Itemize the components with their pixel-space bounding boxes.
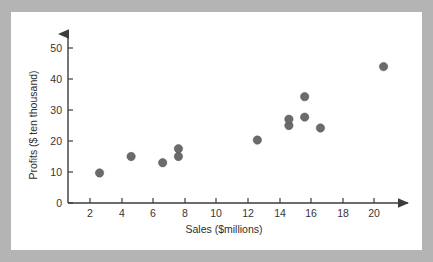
y-tick-label-50: 50 — [50, 42, 62, 54]
data-point — [253, 136, 261, 144]
data-points-layer — [95, 62, 387, 177]
x-axis-ticks: 2 4 6 8 10 12 14 16 18 20 — [87, 198, 380, 219]
x-tick-label-4: 4 — [119, 207, 125, 219]
y-tick-label-40: 40 — [50, 73, 62, 85]
plot-area: 0 10 20 30 40 50 2 4 6 — [11, 12, 422, 250]
data-point — [174, 152, 182, 160]
data-point — [300, 113, 308, 121]
y-axis-ticks: 0 10 20 30 40 50 — [50, 42, 73, 209]
x-tick-label-16: 16 — [305, 207, 317, 219]
data-point — [285, 115, 293, 123]
x-tick-label-12: 12 — [242, 207, 254, 219]
y-tick-label-0: 0 — [56, 197, 62, 209]
data-point — [379, 62, 387, 70]
y-axis-title: Profits ($ ten thousand) — [27, 70, 39, 179]
y-tick-label-10: 10 — [50, 166, 62, 178]
x-tick-label-20: 20 — [368, 207, 380, 219]
x-tick-label-8: 8 — [182, 207, 188, 219]
x-tick-label-18: 18 — [337, 207, 349, 219]
data-point — [158, 159, 166, 167]
data-point — [300, 92, 308, 100]
chart-panel: 0 10 20 30 40 50 2 4 6 — [11, 12, 422, 250]
x-tick-label-14: 14 — [274, 207, 286, 219]
data-point — [316, 124, 324, 132]
x-tick-label-6: 6 — [150, 207, 156, 219]
x-tick-label-2: 2 — [87, 207, 93, 219]
scatter-plot-figure: 0 10 20 30 40 50 2 4 6 — [0, 0, 433, 262]
data-point — [95, 169, 103, 177]
y-tick-label-30: 30 — [50, 104, 62, 116]
data-point — [174, 145, 182, 153]
y-tick-label-20: 20 — [50, 135, 62, 147]
x-tick-label-10: 10 — [210, 207, 222, 219]
data-point — [127, 152, 135, 160]
x-axis-title: Sales ($millions) — [185, 223, 262, 235]
